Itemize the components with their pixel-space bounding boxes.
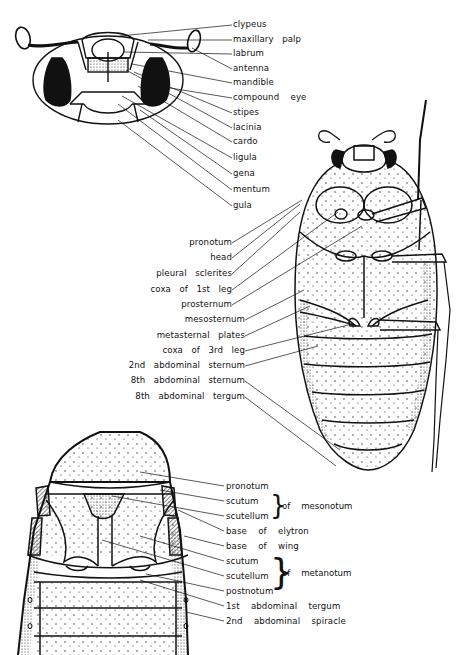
label-base-of-elytron: base of elytron [226,526,309,536]
label-antenna: antenna [233,63,269,73]
label-metanotum-scutum: scutum [226,556,258,566]
label-head: head [210,252,232,262]
label-1st-abdominal-tergum: 1st abdominal tergum [226,601,340,611]
label-mandible: mandible [233,77,274,87]
label-coxa-1st-leg: coxa of 1st leg [151,284,232,294]
label-8th-abdominal-tergum: 8th abdominal tergum [135,391,245,401]
label-labrum: labrum [233,48,264,58]
label-mentum: mentum [233,184,270,194]
label-clypeus: clypeus [233,19,267,29]
label-base-of-wing: base of wing [226,541,299,551]
group-of-metanotum: of metanotum [282,568,351,578]
group-of-mesonotum: of mesonotum [282,501,353,511]
label-stipes: stipes [233,107,259,117]
label-maxillary-palp: maxillary palp [233,34,301,44]
label-gula: gula [233,200,252,210]
label-cardo: cardo [233,136,258,146]
label-metasternal-plates: metasternal plates [157,330,245,340]
beetle-ventral-view [232,100,450,472]
label-mesonotum-scutum: scutum [226,496,258,506]
label-gena: gena [233,168,255,178]
label-coxa-3rd-leg: coxa of 3rd leg [163,345,245,355]
label-2nd-abdominal-sternum: 2nd abdominal sternum [129,360,245,370]
label-postnotum: postnotum [226,586,273,596]
label-lacinia: lacinia [233,122,262,132]
head-front-view [13,25,232,206]
label-ligula: ligula [233,152,257,162]
label-pleural-sclerites: pleural sclerites [156,268,232,278]
label-2nd-abdominal-spiracle: 2nd abdominal spiracle [226,616,346,626]
label-mesosternum: mesosternum [185,314,245,324]
label-compound-eye: compound eye [233,92,307,102]
label-pronotum-ventral: pronotum [189,237,232,247]
label-prosternum: prosternum [181,299,232,309]
thorax-dorsal-view [18,432,224,655]
label-8th-abdominal-sternum: 8th abdominal sternum [131,375,245,385]
label-pronotum-dorsal: pronotum [226,481,269,491]
label-mesonotum-scutellum: scutellum [226,511,269,521]
label-metanotum-scutellum: scutellum [226,571,269,581]
